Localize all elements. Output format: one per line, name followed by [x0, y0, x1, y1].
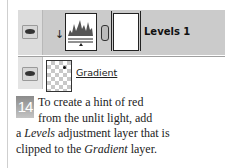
layer-mask-thumbnail[interactable]	[113, 13, 139, 51]
link-dot-icon	[63, 66, 66, 69]
transparent-checker-thumbnail[interactable]	[46, 60, 72, 92]
clipping-arrow-icon: ↓	[55, 28, 64, 41]
step-caption: To create a hint of red from the unlit l…	[16, 95, 221, 157]
layer-name[interactable]: Levels 1	[144, 26, 190, 37]
histogram-icon	[67, 16, 94, 47]
layer-name[interactable]: Gradient	[76, 67, 117, 78]
chain-link-icon[interactable]	[101, 25, 109, 41]
page-margin-rule	[7, 0, 8, 168]
layer-row-gradient[interactable]: Gradient	[18, 56, 225, 89]
visibility-column[interactable]	[18, 10, 43, 55]
levels-histogram-thumbnail[interactable]	[65, 13, 97, 51]
layer-row-levels-1[interactable]: ↓ Levels 1	[18, 10, 225, 55]
eye-icon[interactable]	[22, 67, 38, 81]
visibility-column[interactable]	[18, 57, 43, 89]
eye-icon[interactable]	[22, 25, 38, 39]
layers-panel: ↓ Levels 1 Gradient	[18, 0, 231, 88]
